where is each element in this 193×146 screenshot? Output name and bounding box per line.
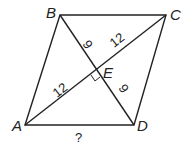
vertex-label-c: C	[170, 6, 181, 23]
segment-label-ad: ?	[75, 130, 82, 145]
vertex-label-e: E	[103, 64, 114, 81]
segment-label-be: 9	[80, 37, 96, 51]
vertex-label-d: D	[137, 117, 148, 134]
segment-label-ed: 9	[116, 81, 132, 95]
right-angle-mark	[91, 75, 100, 81]
rhombus-diagram: B C A D E 9 12 12 9 ?	[0, 0, 193, 146]
vertex-label-b: B	[46, 4, 56, 21]
diagonal-bd	[60, 15, 134, 125]
segment-label-ae: 12	[50, 80, 71, 101]
vertex-label-a: A	[11, 117, 22, 134]
diagonal-ac	[25, 15, 166, 125]
